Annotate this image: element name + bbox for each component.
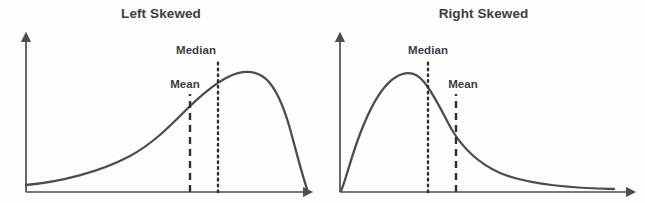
skewness-comparison-figure: Left Skewed Median Mean <box>0 0 645 203</box>
median-label-right: Median <box>408 44 448 56</box>
median-label-left: Median <box>176 44 216 56</box>
right-skewed-plot <box>322 0 645 203</box>
mean-label-left: Mean <box>170 78 200 90</box>
left-skewed-plot <box>0 0 322 203</box>
panel-left-skewed: Left Skewed Median Mean <box>0 0 322 203</box>
density-curve-left <box>26 72 307 189</box>
mean-label-right: Mean <box>448 78 478 90</box>
panel-right-skewed: Right Skewed Median Mean <box>322 0 645 203</box>
density-curve-right <box>341 73 614 191</box>
